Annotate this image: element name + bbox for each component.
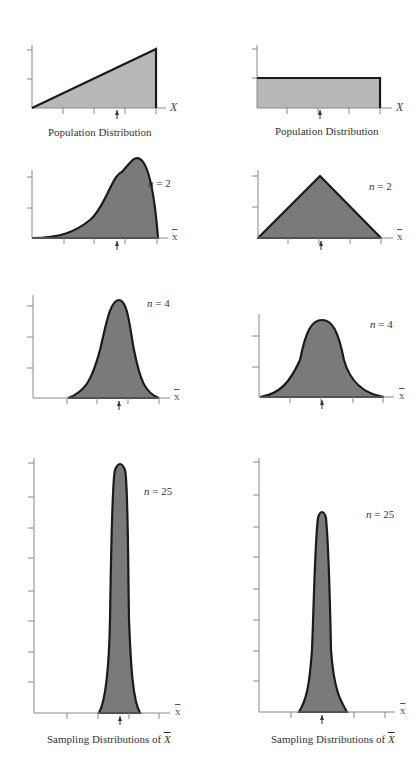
sampling-caption: Sampling Distributions of X bbox=[271, 733, 395, 745]
panel-row4-left bbox=[28, 458, 170, 725]
mean-arrow-icon bbox=[117, 401, 121, 410]
x-axis-label: X bbox=[170, 100, 177, 115]
figure-canvas bbox=[0, 0, 420, 782]
sampling-area bbox=[32, 158, 158, 238]
mean-arrow-icon bbox=[319, 241, 323, 250]
sample-size-label: n = 2 bbox=[369, 180, 392, 192]
x-axis-label: x bbox=[174, 390, 180, 402]
sample-size-label: n = 25 bbox=[144, 485, 172, 497]
x-axis-label: x bbox=[172, 230, 178, 242]
panel-top-right bbox=[252, 45, 392, 119]
population-caption: Population Distribution bbox=[48, 126, 152, 138]
x-axis-label: x bbox=[175, 705, 181, 717]
sample-size-label: n = 25 bbox=[366, 508, 394, 520]
mean-arrow-icon bbox=[318, 110, 322, 119]
sample-size-label: n = 2 bbox=[148, 177, 171, 189]
mean-arrow-icon bbox=[118, 716, 122, 725]
sampling-area bbox=[68, 300, 159, 398]
sampling-caption: Sampling Distributions of X bbox=[47, 733, 171, 745]
sample-size-label: n = 4 bbox=[370, 318, 393, 330]
sampling-area bbox=[299, 512, 347, 712]
population-area bbox=[257, 78, 380, 108]
x-axis-label: x bbox=[399, 389, 405, 401]
x-axis-label: X bbox=[396, 100, 403, 115]
mean-arrow-icon bbox=[115, 241, 119, 250]
x-axis-label: x bbox=[400, 704, 406, 716]
mean-arrow-icon bbox=[115, 110, 119, 119]
panel-row4-right bbox=[253, 458, 395, 724]
mean-arrow-icon bbox=[320, 715, 324, 724]
panel-row2-left bbox=[27, 158, 168, 250]
panel-top-left bbox=[27, 45, 166, 119]
x-axis-label: x bbox=[397, 230, 403, 242]
population-caption: Population Distribution bbox=[275, 125, 379, 137]
sampling-area bbox=[258, 176, 381, 238]
sample-size-label: n = 4 bbox=[147, 297, 170, 309]
panel-row3-left bbox=[27, 295, 170, 410]
sampling-area bbox=[99, 464, 140, 713]
sampling-area bbox=[260, 320, 384, 397]
